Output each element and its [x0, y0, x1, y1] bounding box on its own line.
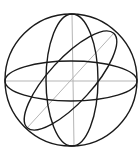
sphere-diagram: [0, 0, 140, 155]
sphere-wireframe-graphic: [0, 0, 140, 155]
vertical-axis: [72, 14, 74, 146]
